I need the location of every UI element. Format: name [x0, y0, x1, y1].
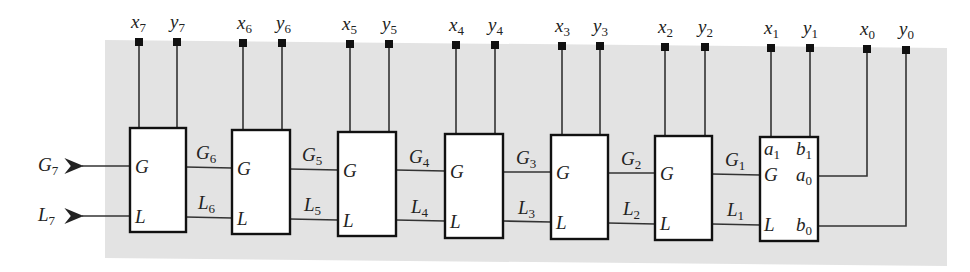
input-label-x5: x5: [342, 14, 357, 36]
input-label-y2: y2: [698, 17, 713, 39]
port-a1: a1: [764, 139, 780, 161]
output-label-g7: G7: [38, 155, 58, 177]
link-label-l6: L6: [198, 193, 215, 215]
input-label-y1: y1: [803, 18, 818, 40]
input-label-x0: x0: [860, 19, 875, 41]
link-label-g4: G4: [409, 147, 429, 169]
link-label-l2: L2: [623, 199, 640, 221]
port-b0: b0: [796, 215, 812, 237]
port-l-box7: L: [135, 207, 146, 226]
circuit-wires: [0, 0, 970, 272]
port-g-box6: G: [237, 159, 251, 178]
port-a0: a0: [796, 165, 812, 187]
input-label-y0: y0: [899, 19, 914, 41]
link-label-g1: G1: [725, 150, 745, 172]
input-label-x1: x1: [764, 18, 779, 40]
input-label-y7: y7: [170, 12, 185, 34]
input-label-y6: y6: [276, 13, 291, 35]
port-g-box7: G: [135, 157, 149, 176]
link-label-l3: L3: [518, 198, 535, 220]
port-l-box1: L: [764, 215, 775, 234]
link-label-l5: L5: [304, 195, 321, 217]
input-label-x4: x4: [449, 15, 464, 37]
input-label-x3: x3: [555, 16, 570, 38]
port-g-box4: G: [450, 162, 464, 181]
link-label-g3: G3: [516, 148, 536, 170]
port-b1: b1: [796, 139, 812, 161]
port-g-box5: G: [343, 161, 357, 180]
port-g-box2: G: [660, 164, 674, 183]
input-label-y4: y4: [488, 15, 503, 37]
input-label-y3: y3: [593, 16, 608, 38]
link-label-g5: G5: [302, 145, 322, 167]
link-label-l4: L4: [411, 197, 428, 219]
port-l-box5: L: [343, 211, 354, 230]
port-l-box4: L: [450, 212, 461, 231]
port-g-box3: G: [556, 163, 570, 182]
port-l-box2: L: [660, 214, 671, 233]
input-label-x7: x7: [131, 12, 146, 34]
input-label-x2: x2: [658, 17, 673, 39]
port-g-box1: G: [764, 165, 778, 184]
output-label-l7: L7: [38, 205, 55, 227]
input-label-y5: y5: [382, 14, 397, 36]
link-label-l1: L1: [727, 200, 744, 222]
link-label-g6: G6: [196, 143, 216, 165]
port-l-box3: L: [556, 213, 567, 232]
port-l-box6: L: [237, 209, 248, 228]
input-label-x6: x6: [237, 13, 252, 35]
link-label-g2: G2: [621, 149, 641, 171]
